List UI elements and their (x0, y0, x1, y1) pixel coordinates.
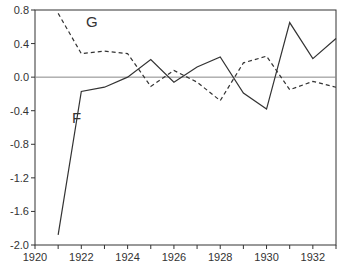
y-tick-label: 0.4 (14, 38, 29, 50)
x-tick-label: 1930 (254, 251, 278, 263)
series-label-G: G (86, 13, 98, 30)
y-tick-label: -1.2 (10, 172, 29, 184)
x-tick-label: 1932 (301, 251, 325, 263)
series-label-F: F (72, 109, 81, 126)
x-tick-label: 1928 (208, 251, 232, 263)
y-tick-label: -1.6 (10, 205, 29, 217)
annotations: GF (72, 13, 98, 127)
x-tick-label: 1926 (162, 251, 186, 263)
series-F (58, 23, 336, 235)
y-axis: 0.80.40.0-0.4-0.8-1.2-1.6-2.0 (10, 4, 35, 251)
y-tick-label: -2.0 (10, 239, 29, 251)
x-tick-label: 1920 (23, 251, 47, 263)
y-tick-label: -0.8 (10, 138, 29, 150)
x-tick-label: 1924 (115, 251, 139, 263)
x-axis: 1920192219241926192819301932 (23, 245, 336, 263)
plot-frame (35, 10, 336, 245)
y-tick-label: 0.8 (14, 4, 29, 16)
y-tick-label: 0.0 (14, 71, 29, 83)
line-chart: 0.80.40.0-0.4-0.8-1.2-1.6-2.0 1920192219… (0, 0, 346, 270)
y-tick-label: -0.4 (10, 105, 29, 117)
series-lines (58, 13, 336, 235)
x-tick-label: 1922 (69, 251, 93, 263)
